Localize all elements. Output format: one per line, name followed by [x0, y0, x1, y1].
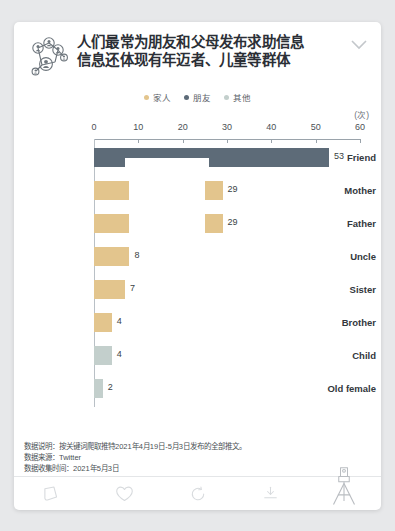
x-tick-label: 20 — [178, 122, 188, 132]
legend-label: 家人 — [153, 91, 171, 103]
bar-row: Child4 — [14, 339, 381, 372]
bar-category-label: Uncle — [301, 251, 381, 262]
bar-value-label: 29 — [228, 184, 238, 194]
bar-row: Father29 — [14, 207, 381, 240]
card-toolbar — [14, 477, 381, 510]
bar-row: Sister7 — [14, 273, 381, 306]
bar-category-label: Old female — [301, 383, 381, 394]
render-artifact — [129, 214, 204, 233]
bar-row: Uncle8 — [14, 240, 381, 273]
legend-label: 朋友 — [193, 91, 211, 103]
bar-chart: (次) 0102030405060 Friend53Mother29Father… — [14, 108, 381, 418]
bar-value-label: 8 — [134, 250, 139, 260]
legend-dot-icon — [224, 95, 229, 100]
chart-card: 人们最常为朋友和父母发布求助信息 信息还体现有年迈者、儿童等群体 家人 朋友 — [14, 22, 381, 510]
bar-rows: Friend53Mother29Father29Uncle8Sister7Bro… — [14, 141, 381, 405]
title-line-2: 信息还体现有年迈者、儿童等群体 — [77, 51, 304, 69]
bar-row: Brother4 — [14, 306, 381, 339]
bar-category-label: Mother — [301, 185, 381, 196]
x-axis-tick-labels: 0102030405060 — [14, 122, 381, 134]
chart-legend: 家人 朋友 其他 — [14, 88, 381, 106]
footnote-description: 数据说明：按关键词爬取推特2021年4月19日-5月3日发布的全部推文。 — [24, 441, 246, 452]
bar-value-label: 7 — [130, 283, 135, 293]
footnotes: 数据说明：按关键词爬取推特2021年4月19日-5月3日发布的全部推文。 数据来… — [24, 441, 246, 474]
render-artifact — [129, 181, 204, 200]
bar-row: Old female2 — [14, 372, 381, 405]
legend-item-friend[interactable]: 朋友 — [184, 91, 211, 103]
legend-item-other[interactable]: 其他 — [224, 91, 251, 103]
legend-label: 其他 — [233, 91, 251, 103]
bar-value-label: 53 — [334, 151, 344, 161]
bar-category-label: Brother — [301, 317, 381, 328]
bar-value-label: 4 — [117, 349, 122, 359]
card-header: 人们最常为朋友和父母发布求助信息 信息还体现有年迈者、儿童等群体 — [14, 22, 381, 86]
footnote-collect-time: 数据收集时间：2021年5月3日 — [24, 463, 246, 474]
page-title: 人们最常为朋友和父母发布求助信息 信息还体现有年迈者、儿童等群体 — [77, 31, 304, 69]
bar-category-label: Father — [301, 218, 381, 229]
bar-value-label: 4 — [117, 316, 122, 326]
bar-row: Friend53 — [14, 141, 381, 174]
app-screen: 人们最常为朋友和父母发布求助信息 信息还体现有年迈者、儿童等群体 家人 朋友 — [0, 0, 395, 531]
download-icon[interactable] — [234, 477, 307, 510]
bar-category-label: Sister — [301, 284, 381, 295]
legend-item-family[interactable]: 家人 — [144, 91, 171, 103]
title-line-1: 人们最常为朋友和父母发布求助信息 — [77, 33, 304, 51]
bar — [94, 346, 112, 365]
x-tick-label: 60 — [355, 122, 365, 132]
bar — [94, 247, 129, 266]
x-tick-label: 0 — [91, 122, 96, 132]
axis-unit-label: (次) — [354, 108, 369, 120]
x-tick-label: 50 — [311, 122, 321, 132]
bar-value-label: 29 — [228, 217, 238, 227]
heart-icon[interactable] — [87, 477, 160, 510]
footnote-source: 数据来源：Twitter — [24, 452, 246, 463]
bar — [94, 379, 103, 398]
x-tick-label: 30 — [222, 122, 232, 132]
legend-dot-icon — [184, 95, 189, 100]
bar-value-label: 2 — [108, 382, 113, 392]
bar-category-label: Child — [301, 350, 381, 361]
refresh-icon[interactable] — [161, 477, 234, 510]
comment-icon[interactable] — [14, 477, 87, 510]
x-tick-label: 40 — [266, 122, 276, 132]
bar — [94, 280, 125, 299]
legend-dot-icon — [144, 95, 149, 100]
chevron-down-icon[interactable] — [349, 38, 369, 52]
camera-tripod-icon[interactable] — [308, 477, 381, 510]
people-network-icon — [24, 33, 72, 79]
bar-row: Mother29 — [14, 174, 381, 207]
x-tick-label: 10 — [133, 122, 143, 132]
bar — [94, 313, 112, 332]
render-artifact — [125, 158, 209, 167]
